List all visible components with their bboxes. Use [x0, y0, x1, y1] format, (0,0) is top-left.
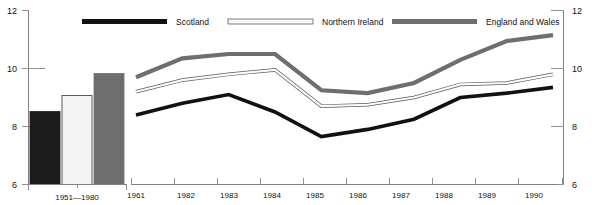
legend-item-england-and-wales[interactable]: England and Wales: [392, 17, 559, 27]
right-axis-tick-12: 12: [572, 6, 582, 16]
bar-scotland[interactable]: [30, 112, 60, 185]
x-tick-label-1982: 1982: [177, 191, 195, 200]
legend-label-northern-ireland: Northern Ireland: [322, 17, 384, 27]
left-axis-tick-8: 8: [12, 122, 17, 132]
series-line-scotland[interactable]: [136, 87, 553, 136]
x-tick-label-1984: 1984: [263, 191, 281, 200]
chart-figure: Scotland Northern Ireland England and Wa…: [0, 0, 592, 205]
legend-item-northern-ireland[interactable]: Northern Ireland: [228, 17, 384, 27]
legend-swatch-scotland: [82, 19, 167, 24]
legend-label-england-and-wales: England and Wales: [486, 17, 559, 27]
x-tick-label-1983: 1983: [220, 191, 238, 200]
x-tick-label-1989: 1989: [478, 191, 496, 200]
legend-swatch-england-and-wales: [392, 19, 477, 24]
line-panel: 1961 1982 1983 1984 1985 1986 1987 1988 …: [127, 35, 563, 200]
x-tick-label-1987: 1987: [392, 191, 410, 200]
bar-northern-ireland[interactable]: [62, 96, 92, 185]
chart-legend: Scotland Northern Ireland England and Wa…: [82, 17, 559, 27]
bar-panel-x-label: 1951—1980: [55, 193, 99, 202]
x-tick-label-1990: 1990: [525, 191, 543, 200]
right-axis-tick-8: 8: [572, 122, 577, 132]
right-axis: 12 10 8 6: [551, 6, 582, 190]
legend-label-scotland: Scotland: [176, 17, 209, 27]
x-tick-label-1986: 1986: [349, 191, 367, 200]
right-axis-tick-6: 6: [572, 180, 577, 190]
x-tick-label-1961: 1961: [127, 191, 145, 200]
left-axis-tick-6: 6: [12, 180, 17, 190]
left-axis-tick-12: 12: [7, 6, 17, 16]
left-axis-tick-10: 10: [7, 64, 17, 74]
x-tick-label-1985: 1985: [306, 191, 324, 200]
x-tick-label-1988: 1988: [435, 191, 453, 200]
legend-swatch-northern-ireland: [228, 19, 313, 24]
bar-panel: 1951—1980: [29, 74, 128, 203]
chart-canvas: Scotland Northern Ireland England and Wa…: [0, 0, 592, 205]
bar-england-and-wales[interactable]: [94, 74, 124, 185]
legend-item-scotland[interactable]: Scotland: [82, 17, 209, 27]
right-axis-tick-10: 10: [572, 64, 582, 74]
